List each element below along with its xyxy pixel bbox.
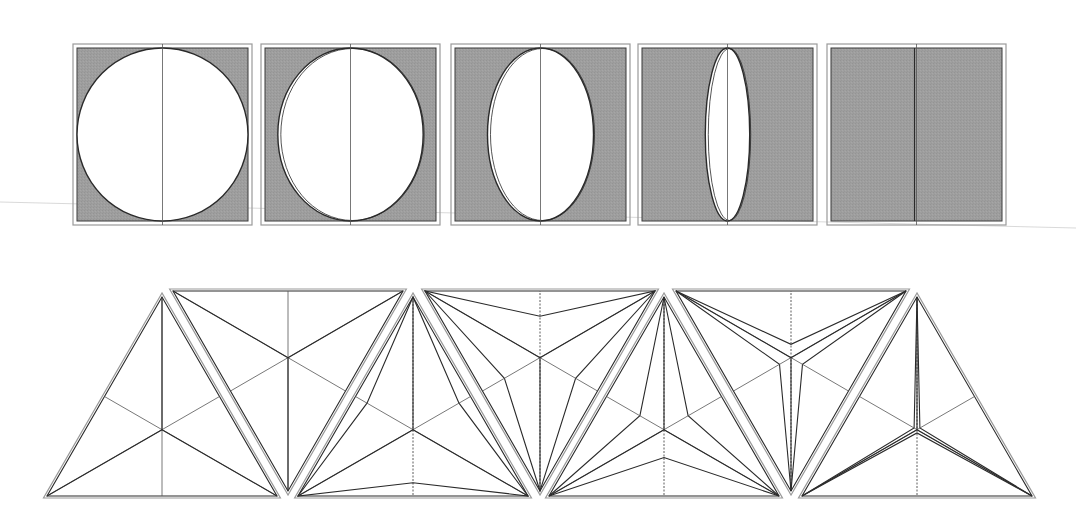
square-1 — [73, 44, 252, 225]
diagram-canvas — [0, 0, 1076, 532]
star-triangles-row — [44, 289, 1036, 498]
triangle-6 — [673, 289, 910, 495]
square-3 — [451, 44, 630, 225]
square-4 — [638, 44, 817, 225]
square-2 — [261, 44, 440, 225]
triangle-1 — [44, 293, 281, 498]
triangle-2 — [170, 289, 407, 495]
triangle-3 — [295, 293, 532, 498]
triangle-4 — [422, 289, 659, 495]
square-5 — [827, 44, 1006, 225]
ellipse-squares-row — [73, 44, 1006, 225]
